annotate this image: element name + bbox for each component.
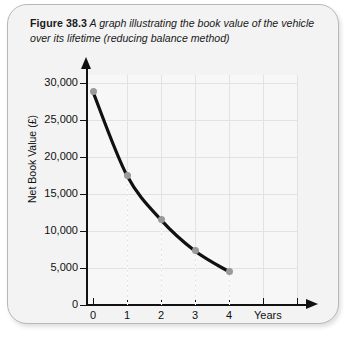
data-point <box>226 268 233 275</box>
chart-area: 05,00010,00015,00020,00025,00030,000 012… <box>8 5 339 324</box>
data-point <box>124 172 131 179</box>
y-axis-title: Net Book Value (£) <box>26 84 38 234</box>
figure-panel: Figure 38.3 A graph illustrating the boo… <box>7 4 339 324</box>
data-curve <box>8 5 339 324</box>
data-point <box>90 88 97 95</box>
data-point <box>158 216 165 223</box>
x-axis-title: Years <box>254 309 282 321</box>
